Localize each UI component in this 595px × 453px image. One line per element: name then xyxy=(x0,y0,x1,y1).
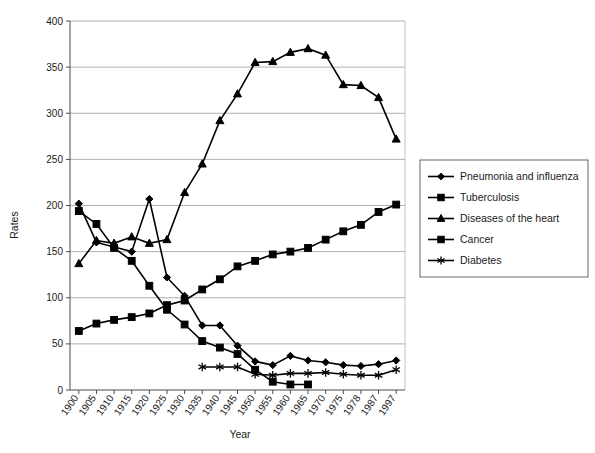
chart-container: 050100150200250300350400 190019051910191… xyxy=(0,0,595,453)
chart-legend: Pneumonia and influenzaTuberculosisDisea… xyxy=(420,160,588,277)
data-point-marker xyxy=(322,236,329,243)
y-axis-title: Rates xyxy=(8,211,20,238)
data-point-marker xyxy=(393,201,400,208)
data-point-marker xyxy=(199,338,206,345)
data-point-marker xyxy=(438,236,444,242)
data-point-marker xyxy=(234,263,241,270)
legend-item-label: Diabetes xyxy=(460,254,501,266)
data-point-marker xyxy=(305,245,312,252)
data-point-marker xyxy=(93,221,100,228)
legend-item-label: Diseases of the heart xyxy=(460,212,559,224)
legend-item-label: Tuberculosis xyxy=(460,191,519,203)
data-point-marker xyxy=(340,228,347,235)
y-tick-label: 50 xyxy=(52,338,64,349)
data-point-marker xyxy=(146,282,153,289)
data-point-marker xyxy=(128,314,135,321)
data-point-marker xyxy=(375,209,382,216)
data-point-marker xyxy=(128,257,135,264)
data-point-marker xyxy=(234,351,241,358)
data-point-marker xyxy=(438,194,444,200)
data-point-marker xyxy=(199,286,206,293)
legend-item-label: Pneumonia and influenza xyxy=(460,170,579,182)
data-point-marker xyxy=(146,310,153,317)
data-point-marker xyxy=(75,208,82,215)
y-tick-label: 200 xyxy=(46,200,63,211)
x-axis-title: Year xyxy=(229,428,251,440)
data-point-marker xyxy=(269,251,276,258)
data-point-marker xyxy=(111,316,118,323)
y-tick-label: 250 xyxy=(46,154,63,165)
y-tick-label: 100 xyxy=(46,292,63,303)
y-tick-label: 300 xyxy=(46,108,63,119)
data-point-marker xyxy=(252,257,259,264)
rates-line-chart: 050100150200250300350400 190019051910191… xyxy=(0,0,595,453)
y-tick-label: 0 xyxy=(57,385,63,396)
data-point-marker xyxy=(216,344,223,351)
legend-item-label: Cancer xyxy=(460,233,494,245)
data-point-marker xyxy=(164,302,171,309)
data-point-marker xyxy=(216,276,223,283)
data-point-marker xyxy=(75,328,82,335)
y-tick-label: 150 xyxy=(46,246,63,257)
data-point-marker xyxy=(358,221,365,228)
data-point-marker xyxy=(181,321,188,328)
data-point-marker xyxy=(287,248,294,255)
y-tick-label: 350 xyxy=(46,62,63,73)
data-point-marker xyxy=(93,320,100,327)
y-tick-label: 400 xyxy=(46,16,63,27)
data-point-marker xyxy=(305,381,312,388)
data-point-marker xyxy=(287,381,294,388)
data-point-marker xyxy=(181,297,188,304)
